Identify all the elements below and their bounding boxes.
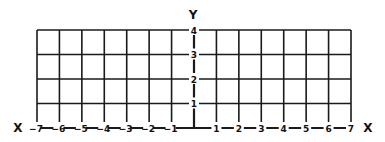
x-tick-label: 7	[348, 124, 354, 134]
x-tick-label: 1	[213, 124, 219, 134]
x-tick-label: 2	[236, 124, 242, 134]
x-tick-label: 5	[303, 124, 309, 134]
y-tick-label: 2	[191, 75, 197, 85]
x-tick-label: −2	[141, 124, 155, 134]
x-tick-label: −5	[74, 124, 88, 134]
x-tick-label: 4	[281, 124, 287, 134]
y-axis-label: Y	[188, 8, 198, 22]
coordinate-grid: −7−6−5−4−3−2−112345671234 X X Y	[0, 0, 385, 142]
x-axis-label-right: X	[363, 121, 373, 135]
x-tick-label: −3	[119, 124, 133, 134]
x-tick-label: −7	[29, 124, 43, 134]
x-tick-label: −6	[52, 124, 66, 134]
x-axis-label-left: X	[13, 121, 23, 135]
y-tick-label: 3	[191, 50, 197, 60]
y-tick-label: 4	[191, 26, 197, 36]
x-tick-label: 6	[325, 124, 331, 134]
x-tick-label: 3	[258, 124, 264, 134]
y-tick-label: 1	[191, 99, 197, 109]
x-tick-label: −4	[96, 124, 110, 134]
x-tick-label: −1	[164, 124, 178, 134]
